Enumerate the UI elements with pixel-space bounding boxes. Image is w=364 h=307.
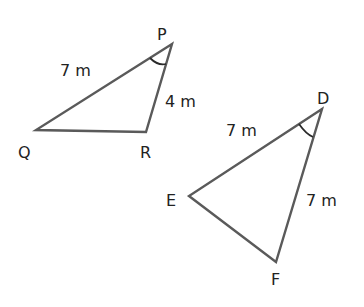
side-label-pq: 7 m xyxy=(60,61,91,80)
side-label-de: 7 m xyxy=(226,121,257,140)
vertex-label-f: F xyxy=(271,270,280,289)
vertex-label-q: Q xyxy=(18,143,31,162)
side-label-df: 7 m xyxy=(306,191,337,210)
triangles-figure: P Q R 7 m 4 m D E F 7 m 7 m xyxy=(0,0,364,307)
side-label-pr: 4 m xyxy=(165,92,196,111)
vertex-label-d: D xyxy=(317,89,329,108)
diagram-canvas: P Q R 7 m 4 m D E F 7 m 7 m xyxy=(0,0,364,307)
vertex-label-p: P xyxy=(157,25,167,44)
vertex-label-r: R xyxy=(140,143,151,162)
vertex-label-e: E xyxy=(166,191,176,210)
angle-d-marker xyxy=(299,124,313,137)
triangle-pqr xyxy=(36,44,172,132)
angle-p-marker xyxy=(150,58,166,64)
